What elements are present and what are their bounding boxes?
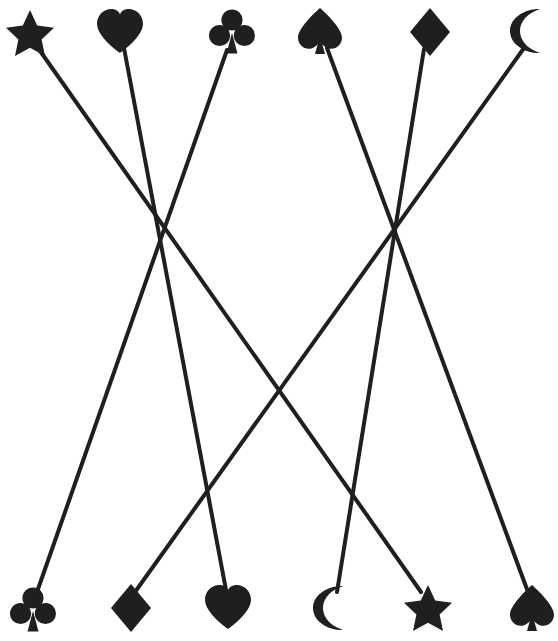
node-bottom-2-diamond[interactable] — [105, 582, 157, 634]
edge-diamond-to-moon[interactable] — [337, 49, 424, 592]
node-top-3-club[interactable] — [206, 6, 258, 58]
spade-icon — [294, 5, 346, 57]
node-top-5-diamond[interactable] — [404, 6, 456, 58]
node-bottom-4-moon[interactable] — [307, 582, 359, 634]
node-top-2-heart[interactable] — [94, 5, 146, 57]
edge-moon-to-diamond[interactable] — [135, 48, 524, 592]
moon-icon — [307, 582, 359, 634]
edge-heart-to-heart[interactable] — [124, 48, 226, 590]
diamond-icon — [404, 6, 456, 58]
node-bottom-5-star[interactable] — [402, 582, 454, 634]
spade-icon — [506, 582, 558, 634]
diagram-canvas — [0, 0, 558, 641]
node-top-4-spade[interactable] — [294, 5, 346, 57]
star-icon — [402, 582, 454, 634]
edge-star-to-star[interactable] — [38, 48, 421, 592]
node-top-6-moon[interactable] — [504, 5, 556, 57]
heart-icon — [94, 5, 146, 57]
edge-spade-to-spade[interactable] — [327, 48, 528, 592]
club-icon — [206, 6, 258, 58]
node-top-1-star[interactable] — [4, 7, 56, 59]
heart-icon — [202, 581, 254, 633]
edge-layer — [0, 0, 558, 641]
moon-icon — [504, 5, 556, 57]
node-bottom-6-spade[interactable] — [506, 582, 558, 634]
edge-club-to-club[interactable] — [37, 50, 227, 592]
node-bottom-3-heart[interactable] — [202, 581, 254, 633]
club-icon — [7, 584, 59, 636]
diamond-icon — [105, 582, 157, 634]
node-bottom-1-club[interactable] — [7, 584, 59, 636]
star-icon — [4, 7, 56, 59]
